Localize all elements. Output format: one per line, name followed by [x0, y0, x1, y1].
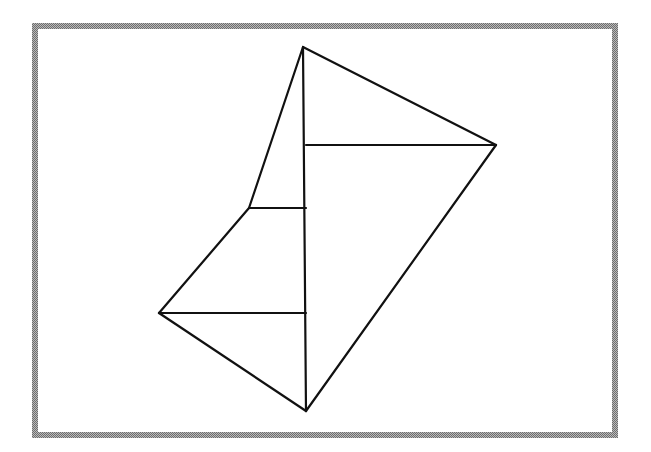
picture-frame-interior	[38, 29, 612, 432]
line-drawing-canvas	[0, 0, 651, 452]
figure-root: Geometric line drawing Wireframe polygon…	[0, 0, 651, 452]
